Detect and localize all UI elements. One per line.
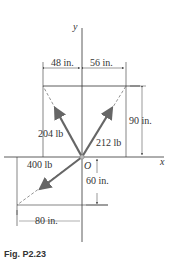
- dim-56: 56 in.: [90, 57, 113, 68]
- y-axis-label: y: [72, 21, 78, 32]
- dim-80: 80 in.: [35, 215, 58, 226]
- dim-60: 60 in.: [86, 175, 109, 186]
- dim-48: 48 in.: [51, 57, 74, 68]
- origin-point: [80, 155, 84, 159]
- x-axis-label: x: [159, 156, 165, 167]
- dim-90: 90 in.: [129, 115, 152, 126]
- force-label-204: 204 lb: [38, 128, 63, 139]
- origin-label: O: [84, 160, 91, 171]
- force-arrow-212: [82, 108, 112, 157]
- force-label-400: 400 lb: [27, 159, 52, 170]
- force-diagram: y x O 48 in. 56 in. 90 in. 60 in. 80 in.…: [0, 0, 174, 267]
- figure-caption: Fig. P2.23: [4, 249, 46, 259]
- force-label-212: 212 lb: [96, 137, 121, 148]
